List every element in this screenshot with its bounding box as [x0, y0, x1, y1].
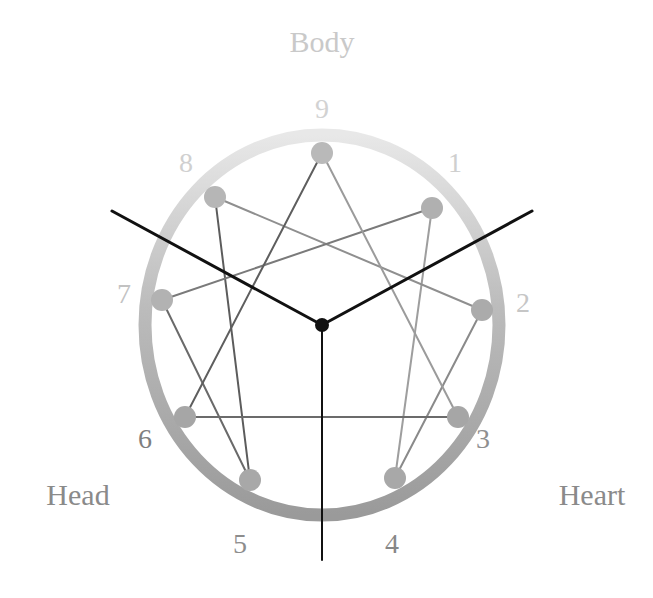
enneagram-diagram: 912345678 BodyHeadHeart [0, 0, 653, 598]
center-group-labels: BodyHeadHeart [46, 25, 626, 511]
type-number-label-4: 4 [385, 528, 399, 559]
type-node-4[interactable] [384, 467, 406, 489]
type-number-label-2: 2 [516, 287, 530, 318]
type-node-3[interactable] [447, 406, 469, 428]
type-node-5[interactable] [239, 469, 261, 491]
hexad-edge-4-2 [395, 310, 482, 478]
type-node-6[interactable] [174, 406, 196, 428]
center-group-label-head: Head [46, 478, 109, 511]
type-number-label-1: 1 [448, 147, 462, 178]
center-group-label-body: Body [289, 25, 354, 58]
hexad-edge-2-8 [215, 197, 482, 310]
center-group-label-heart: Heart [559, 478, 626, 511]
center-dot [315, 318, 329, 332]
type-node-1[interactable] [421, 197, 443, 219]
hexad-edge-1-4 [395, 208, 432, 478]
center-dot-marker [315, 318, 329, 332]
type-number-label-3: 3 [476, 423, 490, 454]
type-number-label-5: 5 [233, 528, 247, 559]
hexad-edge-5-7 [162, 300, 250, 480]
type-number-label-8: 8 [179, 147, 193, 178]
type-number-label-6: 6 [138, 423, 152, 454]
center-rays-group [112, 211, 532, 560]
type-node-9[interactable] [311, 142, 333, 164]
type-number-label-9: 9 [315, 93, 329, 124]
type-node-7[interactable] [151, 289, 173, 311]
type-node-8[interactable] [204, 186, 226, 208]
hexad-edge-8-5 [215, 197, 250, 480]
enneagram-canvas: 912345678 BodyHeadHeart [0, 0, 653, 598]
triangle-edge-9-3 [322, 153, 458, 417]
type-node-2[interactable] [471, 299, 493, 321]
type-number-label-7: 7 [117, 278, 131, 309]
